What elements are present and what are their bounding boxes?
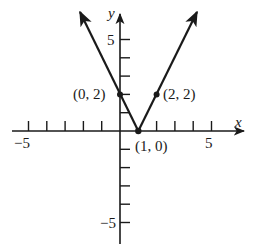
- y-axis-label: y: [106, 5, 115, 21]
- point-2-2: [154, 91, 160, 97]
- point-1-0: [135, 128, 141, 134]
- label-point-1-0: (1, 0): [135, 138, 168, 155]
- graph-right-branch: [138, 12, 197, 131]
- x-tick-label-neg5: −5: [14, 135, 30, 151]
- graph-left-branch: [80, 12, 138, 131]
- y-tick-label-pos5: 5: [107, 32, 115, 48]
- point-0-2: [117, 91, 123, 97]
- graph-canvas: y x −5 5 5 −5 (0, 2) (2, 2) (1, 0): [0, 0, 254, 246]
- label-point-2-2: (2, 2): [163, 86, 196, 103]
- x-axis-label: x: [234, 114, 242, 130]
- x-tick-label-pos5: 5: [205, 135, 213, 151]
- label-point-0-2: (0, 2): [73, 86, 106, 103]
- y-tick-label-neg5: −5: [100, 215, 116, 231]
